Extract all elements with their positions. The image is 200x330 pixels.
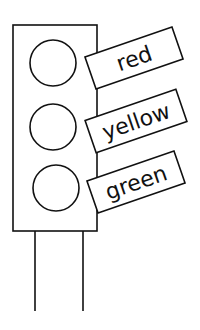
traffic-light-diagram: red yellow green [0, 0, 200, 330]
label-red: red [85, 27, 183, 89]
light-green [33, 165, 79, 211]
light-yellow [30, 104, 76, 150]
label-green: green [87, 151, 185, 213]
traffic-light-housing [13, 25, 97, 231]
light-red [30, 40, 76, 86]
label-yellow: yellow [85, 89, 187, 152]
